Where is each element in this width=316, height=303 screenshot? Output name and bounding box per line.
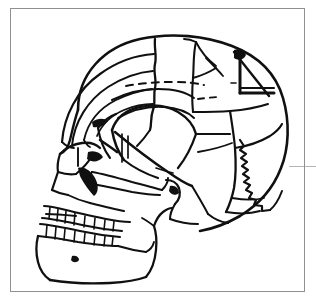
upper-tooth-divider-1	[49, 207, 50, 219]
upper-tooth-divider-5	[84, 216, 85, 227]
lower-tooth-divider-1	[46, 225, 47, 237]
lower-tooth-divider-7	[104, 236, 105, 246]
figure-root	[0, 0, 316, 303]
skull-lateral-illustration	[0, 0, 316, 303]
lower-tooth-divider-6	[94, 235, 95, 245]
lower-tooth-divider-2	[55, 227, 56, 239]
upper-tooth-divider-2	[57, 209, 58, 221]
upper-tooth-divider-8	[113, 221, 114, 231]
lower-tooth-divider-5	[84, 233, 85, 243]
upper-tooth-divider-7	[104, 220, 105, 230]
upper-tooth-divider-4	[74, 213, 75, 225]
upper-tooth-divider-6	[94, 218, 95, 229]
lower-tooth-divider-4	[74, 231, 75, 242]
figure-background	[0, 0, 316, 303]
lower-tooth-divider-8	[112, 237, 113, 246]
lower-tooth-divider-3	[64, 229, 65, 240]
upper-tooth-divider-3	[65, 211, 66, 223]
parietal-inferior-suture	[193, 111, 230, 112]
